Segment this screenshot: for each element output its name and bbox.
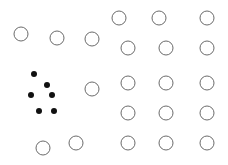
open-circle-marker-15 <box>200 106 214 120</box>
open-circle-marker-14 <box>159 106 173 120</box>
open-circle-marker-16 <box>36 141 50 155</box>
open-circle-marker-3 <box>112 11 126 25</box>
open-circle-marker-4 <box>152 11 166 25</box>
open-circle-marker-10 <box>121 76 135 90</box>
plot-background <box>0 0 228 165</box>
open-circle-marker-11 <box>159 76 173 90</box>
open-circle-marker-5 <box>200 11 214 25</box>
open-circle-marker-0 <box>14 27 28 41</box>
open-circle-marker-8 <box>200 41 214 55</box>
scatter-plot-svg <box>0 0 228 165</box>
filled-dot-marker-5 <box>51 108 57 114</box>
open-circle-marker-2 <box>85 32 99 46</box>
open-circle-marker-6 <box>121 41 135 55</box>
open-circle-marker-18 <box>121 136 135 150</box>
open-circle-marker-9 <box>85 82 99 96</box>
filled-dot-marker-3 <box>49 92 55 98</box>
scatter-plot-canvas <box>0 0 228 165</box>
filled-dot-marker-1 <box>44 82 50 88</box>
open-circle-marker-7 <box>159 41 173 55</box>
filled-dot-marker-2 <box>28 92 34 98</box>
open-circle-marker-19 <box>159 136 173 150</box>
filled-dot-marker-4 <box>36 108 42 114</box>
open-circle-marker-12 <box>200 76 214 90</box>
open-circle-marker-1 <box>50 31 64 45</box>
filled-dot-marker-0 <box>31 71 37 77</box>
open-circle-marker-13 <box>121 106 135 120</box>
open-circle-marker-20 <box>200 136 214 150</box>
open-circle-marker-17 <box>69 136 83 150</box>
